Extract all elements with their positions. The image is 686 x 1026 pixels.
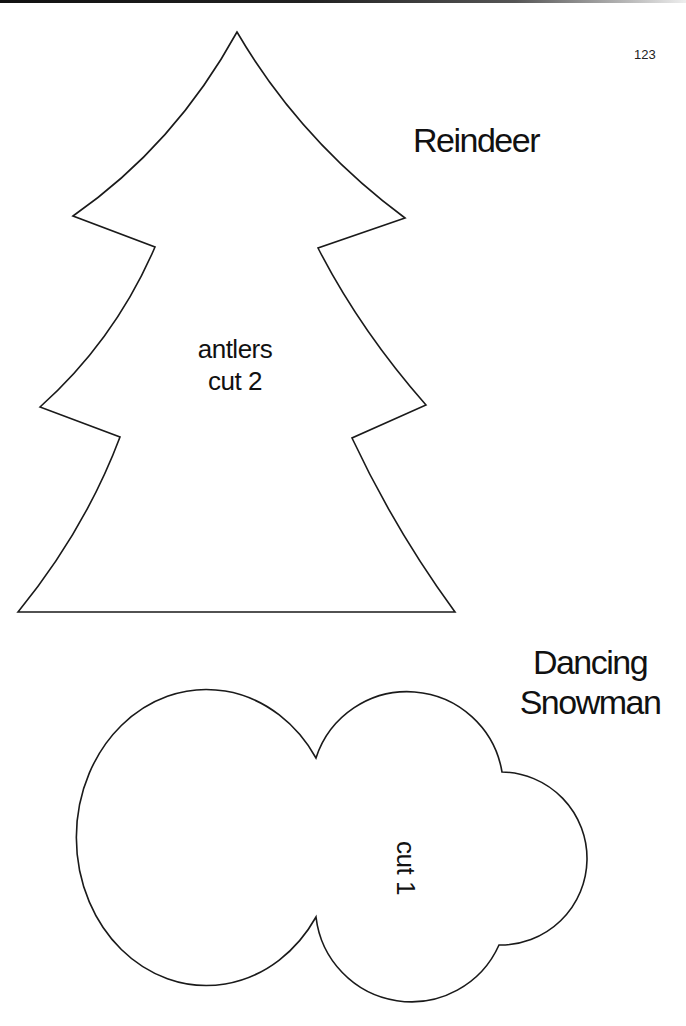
snowman-cut-label: cut 1 xyxy=(390,828,422,908)
snowman-pattern-outline xyxy=(76,690,587,1002)
antlers-label: antlers cut 2 xyxy=(170,333,300,397)
antlers-pattern-outline xyxy=(18,32,455,612)
pattern-shapes xyxy=(0,0,686,1026)
snowman-title-line2: Snowman xyxy=(494,682,686,722)
antlers-label-cut-count: cut 2 xyxy=(170,365,300,397)
antlers-label-name: antlers xyxy=(170,333,300,365)
reindeer-title: Reindeer xyxy=(405,120,547,160)
snowman-title-line1: Dancing xyxy=(494,642,686,682)
snowman-title: Dancing Snowman xyxy=(494,642,686,722)
page-number: 123 xyxy=(634,47,656,62)
